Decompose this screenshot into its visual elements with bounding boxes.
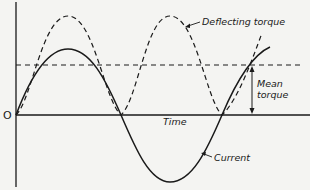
arrow-head-down-icon	[250, 108, 255, 114]
mean-torque-label-line1: Mean	[257, 78, 283, 89]
leader-arrow-icon	[185, 24, 190, 29]
mean-torque-label-line2: torque	[257, 89, 288, 100]
current-label: Current	[214, 152, 251, 163]
arrow-head-up-icon	[250, 66, 255, 72]
origin-label: O	[3, 109, 12, 122]
torque-current-diagram: O Time Deflecting torque Mean torque Cur…	[0, 0, 310, 190]
x-axis-label: Time	[163, 116, 187, 127]
deflecting-torque-label: Deflecting torque	[202, 16, 285, 27]
diagram-canvas: O Time Deflecting torque Mean torque Cur…	[0, 0, 310, 190]
